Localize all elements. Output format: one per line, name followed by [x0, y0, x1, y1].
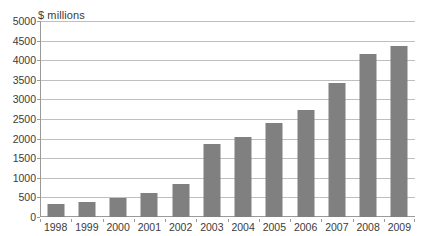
x-axis-tick-label: 2001 [134, 221, 165, 233]
bar-slot [353, 21, 384, 217]
bar-chart: $ millions 50004500400035003000250020001… [0, 0, 425, 236]
bar-slot [384, 21, 415, 217]
x-axis-tick [165, 219, 166, 222]
x-axis-tick [40, 219, 41, 222]
bar-slot [228, 21, 259, 217]
plot-area [40, 21, 415, 217]
bar[interactable] [328, 83, 345, 217]
x-axis-tick-label: 2000 [103, 221, 134, 233]
bar-slot [259, 21, 290, 217]
bar[interactable] [141, 193, 158, 217]
y-axis-tick-label: 2500 [0, 114, 36, 124]
bar[interactable] [391, 46, 408, 217]
x-axis-tick-label: 2003 [196, 221, 227, 233]
x-axis-tick [290, 219, 291, 222]
bar-slot [71, 21, 102, 217]
y-axis-tick-label: 500 [0, 192, 36, 202]
bar[interactable] [110, 198, 127, 217]
x-axis-tick-label: 2004 [228, 221, 259, 233]
bar[interactable] [297, 110, 314, 217]
x-axis-tick [71, 219, 72, 222]
y-axis-tick [37, 217, 40, 218]
bar[interactable] [47, 204, 64, 217]
y-axis-title: $ millions [38, 9, 85, 21]
x-axis-tick-label: 1999 [71, 221, 102, 233]
bar[interactable] [172, 184, 189, 217]
x-axis-tick-label: 2008 [353, 221, 384, 233]
y-axis-tick-label: 3000 [0, 94, 36, 104]
y-axis-tick-labels: 5000450040003500300025002000150010005000 [0, 21, 36, 217]
y-axis-tick-label: 1500 [0, 153, 36, 163]
y-axis-line [40, 21, 41, 217]
x-axis-tick [134, 219, 135, 222]
bar-slot [165, 21, 196, 217]
y-axis-tick-label: 0 [0, 212, 36, 222]
x-axis-tick-label: 2002 [165, 221, 196, 233]
bar-series [40, 21, 415, 217]
bar-slot [321, 21, 352, 217]
bar-slot [103, 21, 134, 217]
x-axis-tick-label: 2007 [321, 221, 352, 233]
y-axis-tick-label: 4000 [0, 55, 36, 65]
x-axis-tick [103, 219, 104, 222]
x-axis-tick [259, 219, 260, 222]
y-axis-tick-label: 4500 [0, 36, 36, 46]
y-axis-tick-label: 5000 [0, 16, 36, 26]
x-axis-tick-labels: 1998199920002001200220032004200520062007… [40, 219, 415, 236]
x-axis-tick-label: 2006 [290, 221, 321, 233]
x-axis-tick [196, 219, 197, 222]
x-axis-tick-label: 2009 [384, 221, 415, 233]
x-axis-tick-label: 1998 [40, 221, 71, 233]
y-axis-tick-label: 1000 [0, 173, 36, 183]
x-axis-tick [321, 219, 322, 222]
x-axis-tick-label: 2005 [259, 221, 290, 233]
bar[interactable] [266, 123, 283, 217]
bar-slot [134, 21, 165, 217]
bar[interactable] [78, 202, 95, 217]
y-axis-tick-label: 2000 [0, 134, 36, 144]
x-axis-tick [353, 219, 354, 222]
bar-slot [40, 21, 71, 217]
x-axis-tick [228, 219, 229, 222]
x-axis-tick [384, 219, 385, 222]
bar-slot [290, 21, 321, 217]
bar-slot [196, 21, 227, 217]
bar[interactable] [203, 144, 220, 217]
x-axis-tick [414, 219, 415, 222]
bar[interactable] [235, 137, 252, 217]
y-axis-tick-label: 3500 [0, 75, 36, 85]
bar[interactable] [360, 54, 377, 217]
